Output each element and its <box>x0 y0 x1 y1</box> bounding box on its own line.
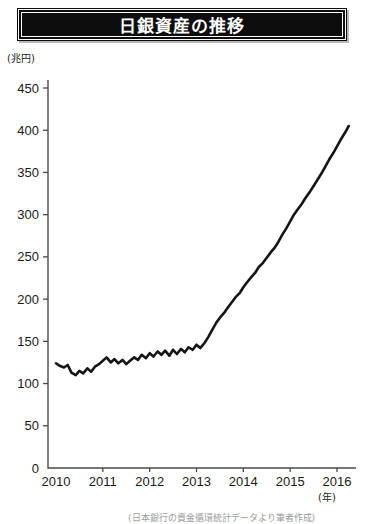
x-axis-tick-label: 2011 <box>89 474 117 489</box>
y-axis-tick-label: 350 <box>17 165 39 180</box>
y-axis-tick-label: 100 <box>17 376 39 391</box>
x-axis-tick-label: 2015 <box>276 474 305 489</box>
y-axis-tick-label: 0 <box>32 461 39 476</box>
y-axis-tick-label: 50 <box>25 418 39 433</box>
y-axis-tick-label: 450 <box>17 81 39 96</box>
series-line-boj-assets <box>56 126 349 375</box>
x-axis-tick-label: 2012 <box>135 474 164 489</box>
x-axis-tick-label: 2016 <box>323 474 352 489</box>
x-axis-tick-label: 2010 <box>42 474 71 489</box>
x-axis-tick-label: 2014 <box>229 474 258 489</box>
y-axis-tick-label: 250 <box>17 249 39 264</box>
x-axis-tick-group: 2010201120122013201420152016 <box>42 468 352 489</box>
axis-lines <box>48 80 356 468</box>
source-caption: (日本銀行の資金循環統計データより筆者作成) <box>128 511 360 524</box>
y-axis-tick-label: 200 <box>17 292 39 307</box>
y-axis-tick-label: 400 <box>17 123 39 138</box>
y-axis-tick-label: 300 <box>17 207 39 222</box>
y-axis-tick-label: 150 <box>17 334 39 349</box>
x-axis-tick-label: 2013 <box>182 474 211 489</box>
y-axis-tick-group: 050100150200250300350400450 <box>17 81 48 476</box>
